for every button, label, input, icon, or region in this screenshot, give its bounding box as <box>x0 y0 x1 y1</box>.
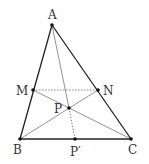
point-p-prime <box>73 137 77 141</box>
triangle-diagram: A B C M N P P′ <box>0 0 149 164</box>
point-n <box>96 88 100 92</box>
segment-mc <box>33 90 131 139</box>
point-b <box>18 137 22 141</box>
point-a <box>50 23 54 27</box>
label-b: B <box>13 143 22 157</box>
point-m <box>31 88 35 92</box>
label-p-prime: P′ <box>70 145 81 159</box>
segment-pp-prime <box>69 108 75 139</box>
label-m: M <box>16 84 28 98</box>
label-a: A <box>47 8 57 22</box>
point-c <box>129 137 133 141</box>
label-p: P <box>54 102 62 116</box>
label-c: C <box>128 143 137 157</box>
label-n: N <box>103 84 114 98</box>
point-p <box>67 106 71 110</box>
